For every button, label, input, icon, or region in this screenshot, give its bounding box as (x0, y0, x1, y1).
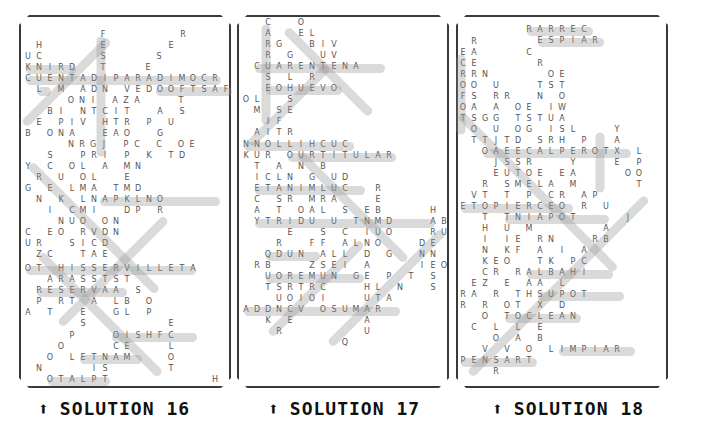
grid-letter: L (536, 180, 544, 189)
grid-letter: M (525, 224, 533, 233)
grid-letter: C (547, 191, 555, 200)
grid-letter: O (470, 125, 478, 134)
grid-letter: S (547, 36, 555, 45)
grid-letter: E (470, 279, 478, 288)
grid-letter: P (635, 158, 643, 167)
grid-letter: E (525, 180, 533, 189)
grid-letter: O (558, 92, 566, 101)
grid-letter: P (591, 191, 599, 200)
grid-letter: O (624, 169, 632, 178)
grid-letter: E (470, 356, 478, 365)
grid-letter: V (470, 191, 478, 200)
grid-letter: T (459, 114, 467, 123)
grid-letter: A (580, 36, 588, 45)
grid-letter: P (525, 191, 533, 200)
up-arrow-icon: ⬆ (268, 398, 280, 419)
grid-letter: C (580, 257, 588, 266)
grid-letter: O (569, 290, 577, 299)
grid-letter: O (503, 257, 511, 266)
grid-letter: O (459, 103, 467, 112)
grid-letter: E (470, 59, 478, 68)
grid-letter: R (547, 136, 555, 145)
grid-letter: L (547, 147, 555, 156)
grid-letter: T (580, 290, 588, 299)
grid-letter: I (569, 36, 577, 45)
grid-letter: P (580, 136, 588, 145)
grid-letter: O (547, 70, 555, 79)
grid-letter: A (503, 356, 511, 365)
grid-letter: O (503, 301, 511, 310)
grid-letter: L (492, 323, 500, 332)
grid-letter: R (580, 147, 588, 156)
grid-letter: I (558, 345, 566, 354)
grid-letter: R (503, 92, 511, 101)
grid-letter: I (481, 235, 489, 244)
grid-letter: X (536, 301, 544, 310)
grid-letter: L (514, 323, 522, 332)
grid-letter: E (514, 147, 522, 156)
grid-letter: A (613, 136, 621, 145)
grid-letter: T (481, 191, 489, 200)
grid-letter: T (503, 191, 511, 200)
grid-letter: E (536, 169, 544, 178)
grid-letter: T (525, 356, 533, 365)
grid-letter: E (547, 202, 555, 211)
grid-letter: S (547, 81, 555, 90)
grid-letter: T (569, 213, 577, 222)
grid-letter: A (470, 290, 478, 299)
grid-letter: S (470, 92, 478, 101)
grid-letter: O (470, 81, 478, 90)
grid-letter: P (459, 356, 467, 365)
grid-letter: Y (569, 158, 577, 167)
grid-letter: O (591, 147, 599, 156)
grid-letter: N (481, 70, 489, 79)
grid-letter: T (558, 81, 566, 90)
grid-letter: L (558, 279, 566, 288)
grid-letter: E (492, 169, 500, 178)
grid-letter: N (547, 235, 555, 244)
grid-letter: D (514, 136, 522, 145)
grid-letter: A (602, 224, 610, 233)
grid-letter: M (569, 345, 577, 354)
grid-letter: U (547, 114, 555, 123)
grid-letter: R (558, 191, 566, 200)
grid-letter: O (514, 312, 522, 321)
grid-letter: T (536, 114, 544, 123)
grid-letter: C (536, 202, 544, 211)
grid-letter: A (558, 114, 566, 123)
caption-text: SOLUTION 17 (290, 398, 420, 419)
grid-letter: O (635, 169, 643, 178)
grid-letter: P (558, 147, 566, 156)
grid-letter: U (503, 169, 511, 178)
grid-letter: E (525, 103, 533, 112)
grid-letter: T (514, 301, 522, 310)
grid-letter: P (492, 202, 500, 211)
caption-solution-16: ⬆SOLUTION 16 (38, 398, 190, 419)
grid-letter: E (613, 158, 621, 167)
grid-letter: S (558, 125, 566, 134)
grid-letter: R (580, 202, 588, 211)
grid-letter: I (503, 235, 511, 244)
grid-letter: T (536, 257, 544, 266)
grid-letter: O (558, 213, 566, 222)
grid-letter: E (558, 169, 566, 178)
grid-letter: H (569, 268, 577, 277)
grid-letter: E (547, 312, 555, 321)
grid-letter: R (514, 268, 522, 277)
grid-letter: H (558, 136, 566, 145)
grid-letter: S (514, 158, 522, 167)
up-arrow-icon: ⬆ (38, 398, 50, 419)
grid-letter: U (492, 81, 500, 90)
grid-letter: T (536, 81, 544, 90)
grid-letter: D (558, 301, 566, 310)
grid-letter: A (569, 169, 577, 178)
grid-letter: C (525, 48, 533, 57)
grid-letter: O (525, 345, 533, 354)
grid-letter: L (569, 125, 577, 134)
grid-letter: I (547, 103, 555, 112)
grid-letter: T (503, 213, 511, 222)
grid-letter: R (492, 92, 500, 101)
grid-letter: J (492, 136, 500, 145)
grid-letter: I (558, 246, 566, 255)
grid-letter: P (569, 257, 577, 266)
